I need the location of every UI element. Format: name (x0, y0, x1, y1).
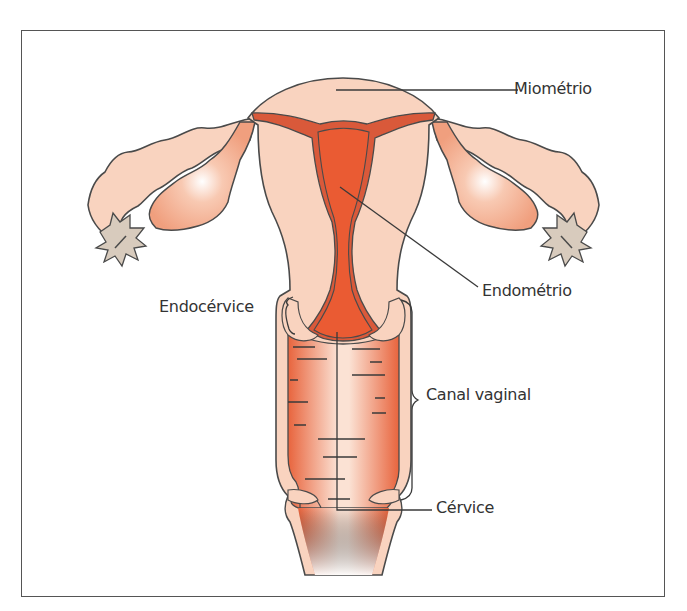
label-endocervice: Endocérvice (159, 297, 254, 316)
vaginal-canal (288, 330, 399, 510)
label-endometrio: Endométrio (482, 281, 572, 300)
label-canal-vaginal: Canal vaginal (426, 385, 531, 404)
label-cervice: Cérvice (436, 498, 494, 517)
label-miometrio: Miométrio (514, 79, 592, 98)
